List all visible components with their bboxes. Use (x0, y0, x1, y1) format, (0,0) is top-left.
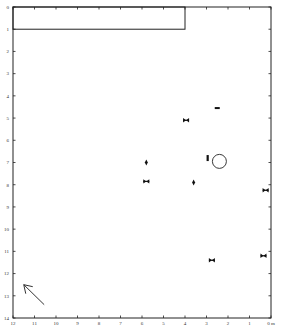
y-tick-label: 7 (7, 160, 10, 165)
x-tick-label: 9 (76, 321, 79, 326)
x-tick-label: 2 (227, 321, 230, 326)
y-tick-label: 0 (7, 5, 10, 10)
plot-frame (13, 7, 271, 318)
y-tick-label: 14 (4, 316, 10, 321)
tick-labels: 1211109876543210 m01234567891011121314 (4, 5, 275, 326)
circle-marker (212, 154, 226, 168)
y-tick-label: 3 (7, 71, 10, 76)
y-tick-label: 11 (4, 249, 9, 254)
structure-rectangle (13, 7, 185, 29)
x-tick-label: 12 (11, 321, 17, 326)
site-plan-plot: 1211109876543210 m01234567891011121314 (0, 0, 281, 328)
y-tick-label: 12 (4, 271, 10, 276)
y-tick-label: 8 (7, 183, 10, 188)
x-tick-label: 11 (32, 321, 37, 326)
x-tick-label: 6 (141, 321, 144, 326)
x-tick-label: 3 (205, 321, 208, 326)
diamond-marker (145, 160, 148, 166)
structures (13, 7, 185, 305)
y-tick-label: 1 (7, 27, 10, 32)
x-tick-label: 0 m (267, 321, 275, 326)
x-tick-label: 5 (162, 321, 165, 326)
x-tick-label: 10 (54, 321, 60, 326)
y-tick-label: 13 (4, 294, 10, 299)
y-tick-label: 4 (7, 94, 10, 99)
x-tick-label: 4 (184, 321, 187, 326)
x-tick-label: 7 (119, 321, 122, 326)
north-arrow-shaft (24, 285, 44, 305)
y-tick-label: 9 (7, 205, 10, 210)
bowtie-marker-bar (183, 120, 189, 121)
bowtie-marker-bar (263, 190, 269, 191)
markers (143, 107, 268, 262)
bowtie-marker-bar (209, 260, 215, 261)
bowtie-marker-bar (143, 181, 149, 182)
y-tick-label: 5 (7, 116, 10, 121)
bowtie-marker-bar (260, 255, 266, 256)
bar-marker (207, 155, 209, 161)
x-tick-label: 1 (248, 321, 251, 326)
ticks (13, 7, 271, 318)
axes (13, 7, 271, 318)
x-tick-label: 8 (98, 321, 101, 326)
y-tick-label: 10 (4, 227, 10, 232)
y-tick-label: 6 (7, 138, 10, 143)
dash-marker (215, 107, 220, 109)
diamond-marker (192, 179, 195, 185)
y-tick-label: 2 (7, 49, 10, 54)
